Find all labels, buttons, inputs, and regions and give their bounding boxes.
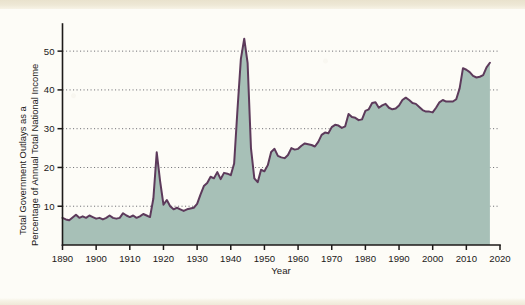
x-tick-label-1990: 1990 bbox=[388, 253, 409, 264]
x-tick-label-1930: 1930 bbox=[186, 253, 207, 264]
x-tick-label-1960: 1960 bbox=[287, 253, 308, 264]
x-tick-label-2010: 2010 bbox=[456, 253, 477, 264]
y-tick-label-40: 40 bbox=[44, 84, 55, 95]
y-tick-group: 1020304050 bbox=[44, 46, 63, 212]
x-tick-label-1970: 1970 bbox=[321, 253, 342, 264]
x-tick-label-1910: 1910 bbox=[119, 253, 140, 264]
x-axis-title: Year bbox=[271, 265, 291, 276]
chart-svg: Total Government Outlays as a Percentage… bbox=[0, 0, 525, 305]
x-tick-label-2000: 2000 bbox=[422, 253, 443, 264]
y-axis-title-line1: Total Government Outlays as a bbox=[17, 106, 28, 235]
y-tick-label-20: 20 bbox=[44, 162, 55, 173]
x-tick-label-1920: 1920 bbox=[153, 253, 174, 264]
x-tick-label-1890: 1890 bbox=[52, 253, 73, 264]
y-axis-title-line2: Percentage of Annual Total National Inco… bbox=[29, 64, 40, 246]
data-series-government-outlays bbox=[63, 39, 490, 245]
series-area-fill bbox=[63, 39, 490, 245]
y-axis-title: Total Government Outlays as a Percentage… bbox=[17, 64, 40, 246]
x-tick-label-1980: 1980 bbox=[355, 253, 376, 264]
y-tick-label-30: 30 bbox=[44, 123, 55, 134]
chart-figure: Total Government Outlays as a Percentage… bbox=[0, 0, 525, 305]
x-tick-label-1950: 1950 bbox=[254, 253, 275, 264]
x-tick-label-2020: 2020 bbox=[489, 253, 510, 264]
y-tick-label-50: 50 bbox=[44, 46, 55, 57]
x-tick-label-1900: 1900 bbox=[85, 253, 106, 264]
x-tick-group: 1890190019101920193019401950196019701980… bbox=[52, 245, 511, 264]
y-tick-label-10: 10 bbox=[44, 201, 55, 212]
x-tick-label-1940: 1940 bbox=[220, 253, 241, 264]
